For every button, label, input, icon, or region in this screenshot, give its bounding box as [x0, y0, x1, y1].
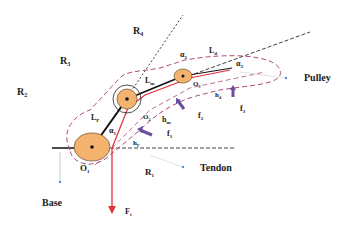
- pulley-pointer: [240, 72, 285, 78]
- distal-reference-line: [183, 32, 310, 78]
- force-arrow-f1: [137, 126, 152, 135]
- label-f2: f2: [198, 111, 204, 121]
- pulley-pointer-dot: [285, 77, 287, 79]
- label-r3: R3: [60, 55, 70, 67]
- label-f1: f1: [167, 129, 173, 139]
- label-o3: O3: [193, 80, 200, 89]
- finger-tendon-diagram: R4 R3 R2 R1 α2 α3 α1 Ld Lm LP O1 O2 O3 h…: [0, 0, 358, 225]
- label-tendon: Tendon: [200, 162, 232, 173]
- label-o1: O1: [80, 163, 90, 174]
- label-lp: LP: [91, 113, 99, 123]
- label-ft: Ft: [125, 207, 132, 217]
- label-lm: Lm: [145, 76, 155, 86]
- tendon-pointer: [150, 155, 182, 167]
- joint-o2-center: [125, 97, 129, 101]
- label-r2: R2: [17, 86, 27, 98]
- label-o2: O2: [143, 113, 150, 122]
- tendon-pointer-dot: [182, 166, 184, 168]
- label-ld: Ld: [209, 46, 217, 56]
- label-f3: f3: [240, 104, 246, 114]
- joint-o3-center: [182, 75, 185, 78]
- base-pointer-dot: [59, 181, 61, 183]
- label-r4: R4: [133, 25, 143, 37]
- label-alpha2: α2: [180, 50, 187, 60]
- label-hd: hd: [215, 91, 222, 100]
- label-pulley: Pulley: [304, 72, 331, 83]
- label-hm: hm: [162, 115, 171, 125]
- joint-o1-center: [90, 145, 94, 149]
- label-r1: R1: [145, 167, 155, 178]
- inner-envelope: [95, 72, 265, 165]
- label-base: Base: [42, 197, 63, 208]
- label-hp: hP: [133, 139, 140, 148]
- force-arrow-f3: [230, 85, 236, 97]
- label-alpha1: α1: [109, 126, 116, 136]
- label-alpha3: α3: [236, 59, 243, 69]
